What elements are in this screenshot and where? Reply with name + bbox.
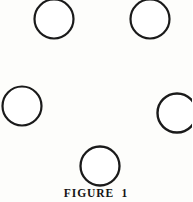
circle-top-left	[35, 0, 74, 39]
circle-diagram	[0, 0, 192, 202]
figure-plate	[0, 0, 192, 202]
figure-caption: FIGURE 1	[0, 186, 192, 200]
circle-middle-left	[3, 87, 42, 126]
circle-bottom-center	[81, 147, 120, 186]
circle-middle-right	[158, 94, 193, 133]
circle-top-right	[131, 0, 170, 39]
figure-page: FIGURE 1	[0, 0, 192, 202]
